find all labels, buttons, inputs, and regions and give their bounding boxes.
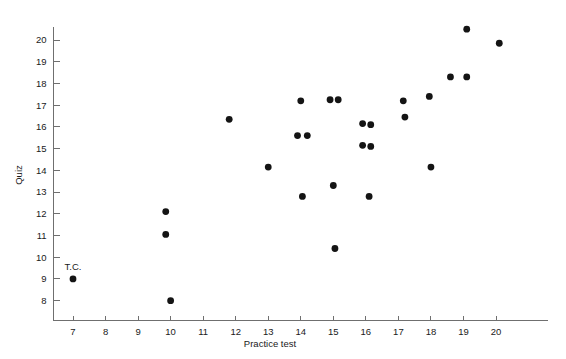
y-tick-label: 10 [36, 252, 47, 263]
data-point-annotation: T.C. [65, 261, 82, 272]
x-tick-label: 9 [135, 326, 140, 337]
data-point [162, 208, 169, 215]
y-tick-label: 18 [36, 78, 47, 89]
data-point [265, 164, 272, 171]
data-point [297, 97, 304, 104]
data-point [167, 297, 174, 304]
y-tick-label: 20 [36, 34, 47, 45]
x-tick-label: 11 [198, 326, 208, 337]
x-tick-label: 18 [426, 326, 437, 337]
data-point [367, 143, 374, 150]
y-axis-ticks [54, 40, 60, 301]
y-tick-label: 11 [37, 230, 47, 241]
x-tick-label: 17 [393, 326, 404, 337]
y-tick-label: 12 [36, 208, 47, 219]
data-point [367, 121, 374, 128]
data-point [332, 245, 339, 252]
data-point [294, 132, 301, 139]
data-point [335, 96, 342, 103]
y-tick-label: 17 [36, 100, 47, 111]
data-point [400, 97, 407, 104]
data-point [496, 40, 503, 47]
data-point [447, 74, 454, 81]
y-axis-title: Quiz [13, 165, 24, 185]
data-point [327, 96, 334, 103]
data-point [463, 74, 470, 81]
y-tick-label: 15 [36, 143, 47, 154]
y-tick-label: 19 [36, 56, 47, 67]
data-point [402, 114, 409, 121]
x-tick-label: 10 [165, 326, 176, 337]
x-tick-label: 16 [361, 326, 372, 337]
axis-lines [54, 27, 549, 321]
data-point [428, 164, 435, 171]
scatter-plot-figure: 7891011121314151617181920 20191817161514… [0, 0, 566, 359]
x-axis-ticks [73, 316, 496, 321]
x-axis-title: Practice test [244, 338, 297, 349]
data-point [70, 276, 77, 283]
x-tick-label: 13 [263, 326, 274, 337]
x-tick-label: 7 [70, 326, 75, 337]
x-tick-label: 19 [458, 326, 469, 337]
data-point [366, 193, 373, 200]
data-point-series [70, 26, 503, 304]
x-tick-label: 20 [491, 326, 502, 337]
data-point [162, 231, 169, 238]
x-tick-label: 15 [328, 326, 339, 337]
x-tick-label: 8 [103, 326, 108, 337]
point-annotations: T.C. [65, 261, 82, 272]
y-axis-tick-labels: 201918171615141312111098 [36, 34, 47, 306]
data-point [463, 26, 470, 33]
y-tick-label: 13 [36, 186, 47, 197]
x-axis-tick-labels: 7891011121314151617181920 [70, 326, 501, 337]
x-tick-label: 14 [295, 326, 306, 337]
scatter-plot-canvas: 7891011121314151617181920 20191817161514… [0, 0, 566, 359]
data-point [426, 93, 433, 100]
y-tick-label: 9 [41, 273, 46, 284]
data-point [359, 142, 366, 149]
y-tick-label: 14 [36, 165, 47, 176]
data-point [304, 132, 311, 139]
y-tick-label: 16 [36, 121, 47, 132]
x-tick-label: 12 [230, 326, 241, 337]
y-tick-label: 8 [41, 295, 46, 306]
data-point [330, 182, 337, 189]
data-point [359, 120, 366, 127]
data-point [299, 193, 306, 200]
data-point [226, 116, 233, 123]
